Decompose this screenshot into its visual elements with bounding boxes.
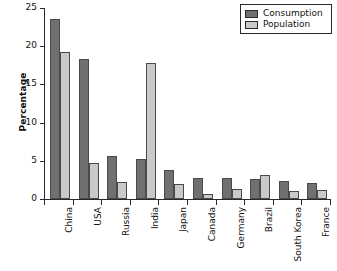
legend-item-consumption: Consumption (245, 8, 326, 19)
legend-swatch-population (245, 21, 258, 29)
bar-consumption-south-korea (279, 181, 289, 199)
x-tick-label-germany: Germany (236, 207, 246, 248)
x-tick-label-china: China (64, 207, 74, 233)
x-tick-label-usa: USA (93, 207, 103, 226)
x-tick-label-south-korea: South Korea (293, 207, 303, 262)
y-tick-label: 10 (26, 117, 37, 127)
bar-population-india (146, 63, 156, 199)
x-tick-label-russia: Russia (121, 207, 131, 236)
legend-item-population: Population (245, 19, 326, 30)
bar-consumption-russia (107, 156, 117, 199)
y-tick-label: 15 (26, 78, 37, 88)
y-axis-title: Percentage (18, 62, 28, 142)
legend-label-consumption: Consumption (263, 8, 323, 19)
bar-chart: Percentage 0510152025 ChinaUSARussiaIndi… (0, 0, 337, 271)
bar-population-japan (174, 184, 184, 199)
bar-consumption-japan (164, 170, 174, 199)
x-tick-label-japan: Japan (178, 207, 188, 232)
legend-label-population: Population (263, 19, 310, 30)
x-tick-label-france: France (321, 207, 331, 237)
bar-consumption-china (50, 19, 60, 199)
bar-population-russia (117, 182, 127, 199)
chart-legend: Consumption Population (240, 4, 332, 34)
y-tick-label: 0 (31, 193, 37, 203)
bar-consumption-germany (222, 178, 232, 199)
y-tick-label: 25 (26, 2, 37, 12)
bar-consumption-france (307, 183, 317, 199)
bar-consumption-india (136, 159, 146, 199)
legend-swatch-consumption (245, 10, 258, 18)
bar-population-china (60, 52, 70, 199)
bar-population-south-korea (289, 191, 299, 199)
bar-population-canada (203, 194, 213, 199)
y-tick-label: 20 (26, 40, 37, 50)
x-tick-label-canada: Canada (207, 207, 217, 241)
bar-consumption-canada (193, 178, 203, 199)
y-tick-label: 5 (31, 155, 37, 165)
bar-consumption-usa (79, 59, 89, 199)
x-tick-label-india: India (150, 207, 160, 229)
bar-population-france (317, 190, 327, 199)
bar-consumption-brazil (250, 179, 260, 199)
bar-population-usa (89, 163, 99, 199)
x-tick-label-brazil: Brazil (264, 207, 274, 232)
bar-population-germany (232, 189, 242, 199)
bar-population-brazil (260, 175, 270, 199)
